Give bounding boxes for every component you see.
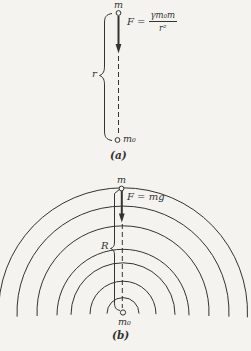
gravity-field-arc	[71, 263, 175, 315]
gravity-field-arcs	[0, 188, 247, 317]
caption-panel-b: (b)	[112, 330, 129, 341]
mass-m0-circle-b	[120, 310, 125, 315]
force-arrow-head-b	[119, 214, 125, 223]
gravity-field-arc	[37, 226, 209, 316]
label-force-mg: F = mg	[127, 192, 165, 202]
label-mass-m0-b: m₀	[118, 317, 131, 327]
mass-m-circle-b	[119, 186, 124, 191]
label-radius-R: R	[101, 241, 109, 251]
gravity-field-arc	[17, 206, 229, 317]
gravity-field-arc	[57, 249, 189, 315]
label-mass-m-b: m	[117, 175, 126, 185]
figure-gravitation: m r m₀ F = γm₀m r² (a) m F = mg R m₀ (b)	[0, 0, 251, 351]
